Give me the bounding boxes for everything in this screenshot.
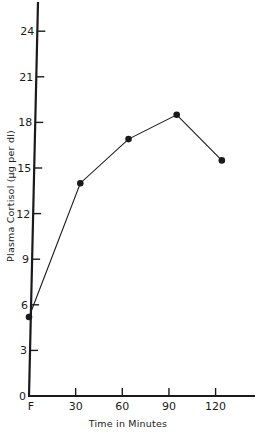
- y-tick-label: 9: [22, 253, 29, 266]
- data-point-marker: [173, 112, 180, 119]
- y-tick-label: 15: [17, 162, 31, 175]
- x-tick-label: F: [28, 400, 34, 413]
- y-tick-label: 6: [21, 299, 28, 312]
- y-tick-label: 12: [16, 208, 30, 221]
- y-tick-label: 18: [18, 116, 32, 129]
- y-axis-title: Plasma Cortisol (µg per dl): [5, 130, 16, 262]
- x-axis-title: Time in Minutes: [88, 418, 167, 429]
- data-point-marker: [26, 314, 33, 321]
- x-tick-label: 60: [115, 400, 129, 413]
- data-point-marker: [125, 136, 132, 143]
- y-tick-label: 3: [20, 344, 27, 357]
- x-axis: F306090120: [28, 388, 255, 413]
- series-line: [29, 115, 222, 317]
- data-series-plasma-cortisol: [26, 112, 225, 321]
- y-axis-line: [29, 2, 38, 396]
- data-point-marker: [219, 157, 226, 164]
- data-point-marker: [77, 180, 84, 187]
- y-tick-label: 24: [20, 25, 34, 38]
- y-tick-label: 0: [19, 390, 26, 403]
- x-tick-label: 120: [205, 400, 226, 413]
- x-tick-label: 30: [69, 400, 83, 413]
- y-tick-label: 21: [19, 71, 33, 84]
- y-axis: 03691215182124: [16, 2, 45, 403]
- chart-canvas: 03691215182124 F306090120 Time in Minute…: [0, 0, 258, 432]
- x-tick-label: 90: [162, 400, 176, 413]
- cortisol-line-chart: 03691215182124 F306090120 Time in Minute…: [0, 0, 258, 432]
